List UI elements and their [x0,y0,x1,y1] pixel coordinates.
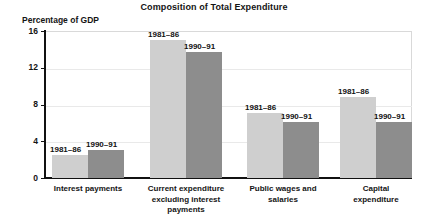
bar-series-label: 1981–86 [338,87,369,96]
bar-series-1990-91 [376,122,412,178]
bar-series-label: 1981–86 [50,145,81,154]
x-category-label-line: Capital [316,184,428,195]
bar-series-1990-91 [186,52,222,178]
bar-series-1990-91 [283,122,319,178]
chart-title: Composition of Total Expenditure [0,2,428,12]
bar-series-label: 1981–86 [148,30,179,39]
x-category-label-line: expenditure [316,195,428,206]
y-tick-mark [41,178,44,179]
bar-series-label: 1990–91 [184,42,215,51]
y-tick-label: 16 [8,27,38,36]
y-axis-line [44,30,46,179]
bar-series-1981-86 [52,155,88,178]
gridline [46,69,412,70]
bar-series-label: 1990–91 [86,140,117,149]
bar-series-1981-86 [247,113,283,178]
y-tick-mark [41,105,44,106]
y-tick-label: 12 [8,63,38,72]
bar-series-label: 1990–91 [374,112,405,121]
bar-chart: Composition of Total Expenditure Percent… [0,0,428,221]
x-category-label: Capitalexpenditure [316,184,428,205]
bar-series-label: 1990–91 [281,112,312,121]
y-axis-title: Percentage of GDP [22,15,99,25]
y-tick-label: 8 [8,100,38,109]
bar-series-1990-91 [88,150,124,178]
bar-series-1981-86 [150,40,186,178]
bar-series-1981-86 [340,97,376,178]
y-tick-label: 0 [8,174,38,183]
y-tick-mark [41,141,44,142]
y-tick-mark [41,68,44,69]
bar-series-label: 1981–86 [245,103,276,112]
x-category-label-line: payments [126,205,246,216]
y-tick-mark [41,31,44,32]
y-tick-label: 4 [8,137,38,146]
